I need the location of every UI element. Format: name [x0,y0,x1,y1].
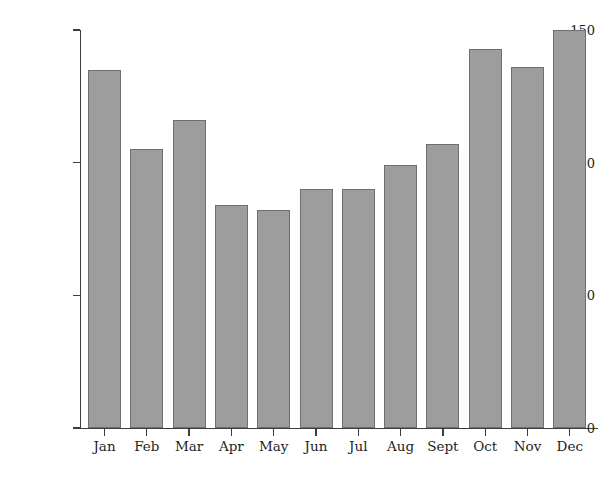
x-axis-tick [146,429,147,436]
y-axis-tick [73,29,80,30]
x-axis-tick [188,429,189,436]
x-axis-tick-label: Jan [93,438,115,454]
bar[interactable] [553,30,586,428]
x-axis-tick [104,429,105,436]
y-axis-tick [73,295,80,296]
x-axis-tick [400,429,401,436]
bar[interactable] [426,144,459,428]
bar[interactable] [469,49,502,428]
x-axis-line [80,428,598,429]
bar[interactable] [511,67,544,428]
x-axis-tick-label: May [259,438,289,454]
x-axis-tick-label: Apr [219,438,244,454]
x-axis-tick-label: Jun [305,438,328,454]
bar[interactable] [257,210,290,428]
plot-area: 050100150JanFebMarAprMayJunJulAugSeptOct… [0,0,606,480]
x-axis-tick-label: Feb [134,438,159,454]
x-axis-tick [315,429,316,436]
x-axis-tick-label: Aug [387,438,414,454]
bar[interactable] [130,149,163,428]
x-axis-tick-label: Sept [427,438,458,454]
y-axis-tick [73,162,80,163]
x-axis-tick [569,429,570,436]
y-axis-tick [73,427,80,428]
bar[interactable] [300,189,333,428]
x-axis-tick [485,429,486,436]
bar-chart: Average rainfall (mm) 050100150JanFebMar… [0,0,606,480]
x-axis-tick-label: Oct [473,438,497,454]
bar[interactable] [342,189,375,428]
x-axis-tick [527,429,528,436]
bar[interactable] [88,70,121,428]
x-axis-tick-label: Jul [349,438,367,454]
x-axis-tick [231,429,232,436]
x-axis-tick [358,429,359,436]
x-axis-tick-label: Mar [175,438,203,454]
x-axis-tick [273,429,274,436]
bar[interactable] [384,165,417,428]
bar[interactable] [215,205,248,428]
y-axis-line [80,30,81,429]
bar[interactable] [173,120,206,428]
x-axis-tick-label: Dec [557,438,583,454]
x-axis-tick-label: Nov [514,438,542,454]
x-axis-tick [442,429,443,436]
